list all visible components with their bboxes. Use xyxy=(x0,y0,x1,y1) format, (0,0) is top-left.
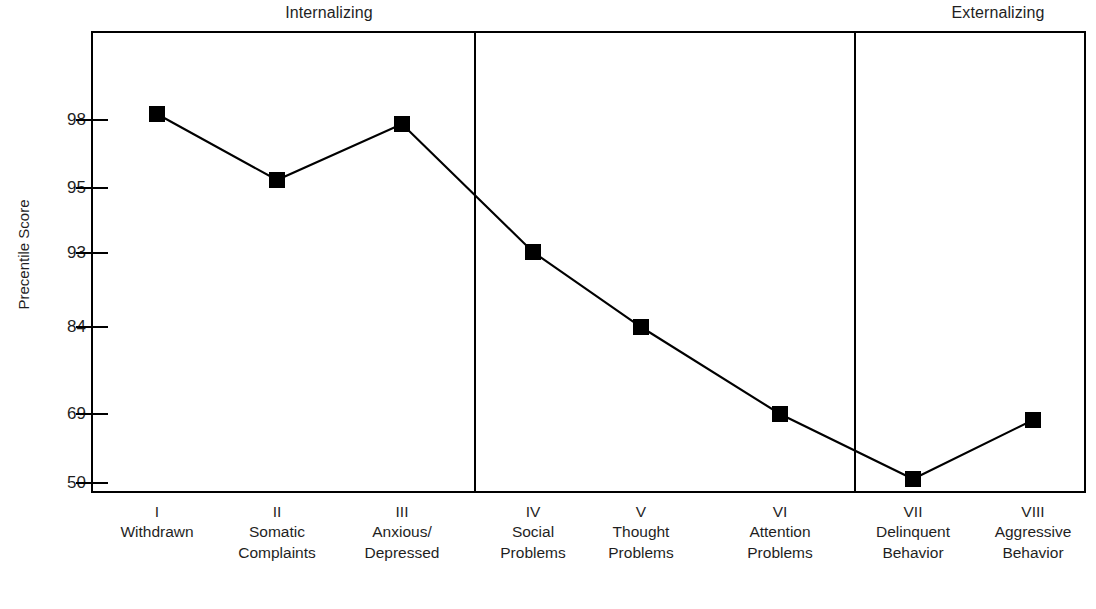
x-axis-category-v: VThoughtProblems xyxy=(566,502,716,563)
data-line xyxy=(157,114,1033,479)
x-axis-numeral: VI xyxy=(705,502,855,522)
x-axis-label-line2: Depressed xyxy=(327,543,477,563)
x-axis-label-line1: Anxious/ xyxy=(327,522,477,542)
x-axis-label-line1: Attention xyxy=(705,522,855,542)
data-point-marker[interactable]: Attention Problems: 68.5 xyxy=(772,406,788,422)
x-axis-category-viii: VIIIAggressiveBehavior xyxy=(958,502,1096,563)
data-point-marker[interactable]: Withdrawn: 98 xyxy=(149,106,165,122)
plot-frame-rect xyxy=(92,32,1085,492)
x-axis-label-line1: Aggressive xyxy=(958,522,1096,542)
data-point-marker[interactable]: Somatic Complaints: 95.3 xyxy=(269,172,285,188)
x-axis-numeral: VIII xyxy=(958,502,1096,522)
x-axis-label-line2: Behavior xyxy=(958,543,1096,563)
x-axis-label-line2: Problems xyxy=(566,543,716,563)
x-axis-category-vi: VIAttentionProblems xyxy=(705,502,855,563)
percentile-line-chart: Internalizing Externalizing Precentile S… xyxy=(0,0,1096,609)
data-point-marker[interactable]: Social Problems: 93.1 xyxy=(525,244,541,260)
x-axis-label-line2: Problems xyxy=(705,543,855,563)
x-axis-numeral: V xyxy=(566,502,716,522)
data-markers: Withdrawn: 98Somatic Complaints: 95.3Anx… xyxy=(149,106,1041,487)
x-axis-numeral: III xyxy=(327,502,477,522)
x-axis-label-line1: Thought xyxy=(566,522,716,542)
data-point-marker[interactable]: Aggressive Behavior: 66 xyxy=(1025,412,1041,428)
data-point-marker[interactable]: Anxious/Depressed: 97.8 xyxy=(394,116,410,132)
data-point-marker[interactable]: Delinquent Behavior: 49.8 xyxy=(905,471,921,487)
plot-frame xyxy=(92,32,1085,492)
data-point-marker[interactable]: Thought Problems: 84 xyxy=(633,319,649,335)
x-axis-category-iii: IIIAnxious/Depressed xyxy=(327,502,477,563)
